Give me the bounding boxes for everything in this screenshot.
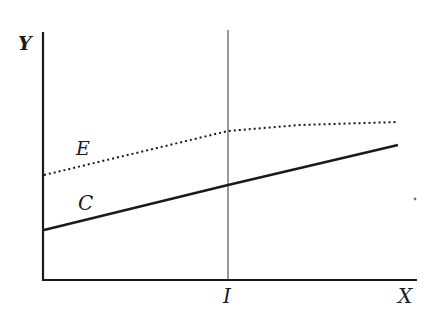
figure: Y X I E C — [0, 0, 442, 327]
y-axis-label: Y — [18, 32, 34, 54]
series-e-label: E — [75, 137, 90, 159]
i-marker-label: I — [222, 284, 232, 308]
diagram-canvas: Y X I E C — [0, 0, 442, 327]
series-c-line — [44, 145, 398, 230]
series-c-label: C — [78, 191, 93, 215]
series-e-line — [44, 122, 398, 175]
scan-speck — [414, 198, 417, 201]
x-axis-label: X — [396, 284, 413, 308]
